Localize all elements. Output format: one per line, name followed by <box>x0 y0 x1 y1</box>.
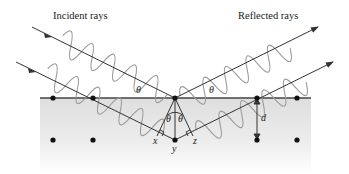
spacing-d-label: d <box>261 112 266 123</box>
atom <box>254 137 259 142</box>
incident-arrow-lower <box>28 68 36 73</box>
atom <box>90 95 95 100</box>
atom <box>172 95 177 100</box>
atom <box>254 95 259 100</box>
point-y-label: y <box>172 143 176 154</box>
incident-ray-upper <box>32 27 175 98</box>
atom <box>50 95 55 100</box>
bragg-diagram: Incident rays Reflected rays θ θ θ θ x y… <box>0 0 349 174</box>
theta-label-left-inner: θ <box>166 113 171 124</box>
atom <box>294 137 299 142</box>
incident-wave-upper <box>55 29 174 105</box>
atom <box>50 137 55 142</box>
atom <box>294 95 299 100</box>
theta-label-right-surface: θ <box>209 84 214 95</box>
atom <box>172 137 177 142</box>
point-x-label: x <box>153 135 157 146</box>
reflected-ray-upper <box>175 27 318 98</box>
incident-rays-label: Incident rays <box>53 10 108 21</box>
theta-label-right-inner: θ <box>178 113 183 124</box>
atom <box>90 137 95 142</box>
reflected-rays-label: Reflected rays <box>238 10 298 21</box>
theta-label-left-surface: θ <box>136 84 141 95</box>
incident-arrow-upper <box>44 33 52 38</box>
point-z-label: z <box>193 135 197 146</box>
